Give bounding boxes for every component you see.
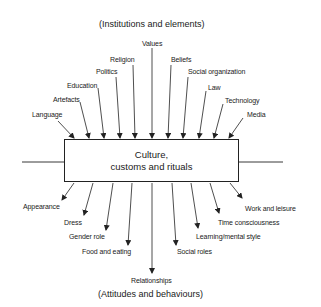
arrow-politics: [116, 77, 120, 138]
input-label-education: Education: [67, 82, 97, 89]
arrow-education: [98, 88, 104, 138]
input-label-technology: Technology: [225, 97, 259, 104]
arrow-food-and-eating: [128, 183, 132, 245]
center-title-line2: customs and rituals: [111, 161, 193, 172]
output-label-time-consciousness: Time consciousness: [218, 219, 279, 226]
arrow-gender-role: [106, 183, 113, 230]
input-label-values: Values: [142, 40, 162, 47]
arrow-religion: [133, 65, 135, 138]
arrow-artefacts: [80, 102, 89, 138]
center-title-line1: Culture,: [135, 149, 168, 160]
input-label-law: Law: [208, 84, 221, 91]
center-box: Culture, customs and rituals: [64, 139, 239, 182]
arrow-media: [229, 118, 243, 138]
arrow-technology: [214, 104, 223, 138]
arrow-time-consciousness: [210, 183, 219, 213]
arrow-work-and-leisure: [230, 183, 242, 198]
input-label-artefacts: Artefacts: [53, 96, 80, 103]
top-heading: (Institutions and elements): [99, 20, 205, 29]
input-label-social-organization: Social organization: [188, 68, 245, 75]
output-label-work-and-leisure: Work and leisure: [245, 205, 296, 212]
input-label-religion: Religion: [110, 56, 135, 63]
output-label-appearance: Appearance: [23, 203, 60, 210]
arrow-beliefs: [168, 65, 171, 138]
bottom-heading: (Attitudes and behaviours): [98, 290, 203, 299]
input-label-beliefs: Beliefs: [171, 56, 191, 63]
input-label-language: Language: [32, 111, 62, 118]
output-label-food-and-eating: Food and eating: [82, 248, 131, 255]
arrow-law: [199, 91, 206, 138]
arrow-learning-mental-style: [191, 183, 198, 228]
arrow-language: [58, 121, 74, 138]
output-label-dress: Dress: [64, 219, 82, 226]
output-label-learning-mental-style: Learning/mental style: [196, 233, 260, 240]
output-label-relationships: Relationships: [131, 277, 172, 284]
arrow-social-roles: [172, 183, 176, 245]
output-label-social-roles: Social roles: [177, 248, 212, 255]
arrow-dress: [84, 183, 93, 215]
arrow-social-organization: [183, 77, 188, 138]
arrow-appearance: [62, 183, 74, 200]
output-label-gender-role: Gender role: [69, 233, 105, 240]
input-label-media: Media: [247, 111, 266, 118]
input-label-politics: Politics: [96, 68, 117, 75]
